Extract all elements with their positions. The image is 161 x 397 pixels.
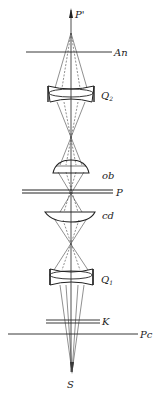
k-plane: K bbox=[46, 316, 110, 327]
arrow-up-icon bbox=[69, 8, 73, 18]
q2-lens: Q2 bbox=[48, 86, 113, 102]
label-k: K bbox=[101, 316, 110, 327]
label-p-prime: P' bbox=[74, 9, 84, 20]
label-ob: ob bbox=[102, 170, 114, 181]
label-cd: cd bbox=[102, 210, 114, 221]
label-p: P bbox=[115, 187, 123, 198]
optical-axis bbox=[69, 8, 74, 374]
label-pc: Pc bbox=[139, 329, 153, 340]
label-q2: Q2 bbox=[101, 90, 113, 102]
optical-diagram: An Q2 ob P cd Q1 K Pc bbox=[0, 0, 161, 397]
label-q1: Q1 bbox=[101, 274, 113, 286]
label-an: An bbox=[113, 47, 128, 58]
condenser-lens: cd bbox=[45, 210, 114, 222]
objective-lens: ob bbox=[53, 160, 114, 181]
pc-plane: Pc bbox=[8, 329, 153, 340]
label-s: S bbox=[67, 379, 74, 390]
q1-lens: Q1 bbox=[50, 269, 113, 286]
